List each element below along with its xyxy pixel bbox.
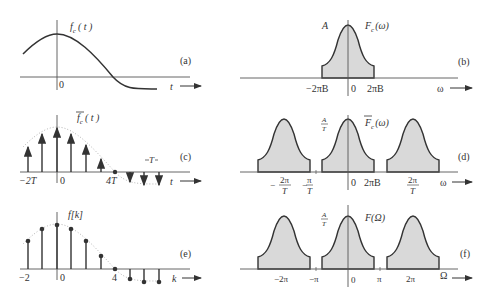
panel-f-dtft-spectrum: A T F(Ω) −2π −π 0 π 2π Ω (f) (240, 205, 472, 287)
panel-d-periodic-spectrum: A T Fc(ω) − 2π T − π T 0 2πB 2π T ω (d) (240, 115, 472, 196)
svg-text:A: A (321, 211, 327, 219)
tick-0: 0 (59, 79, 64, 90)
x-axis-label: t (170, 176, 173, 187)
svg-text:T: T (307, 186, 313, 196)
x-axis-label: k (172, 273, 177, 284)
svg-text:2π: 2π (280, 175, 290, 185)
panel-e-discrete-sequence: f[k] −2 0 4 k (e) (19, 209, 201, 284)
svg-text:T: T (322, 220, 327, 228)
panel-e-title: f[k] (68, 209, 83, 220)
tick-2piB: 2πB (364, 177, 381, 188)
tick-4T: 4T (106, 175, 118, 186)
svg-text:T: T (322, 125, 327, 133)
tick-neg-2pi: −2π (274, 274, 289, 284)
panel-label: (b) (458, 56, 470, 68)
tick-0: 0 (351, 83, 356, 94)
tick-neg-pi: −π (309, 274, 319, 284)
svg-text:T: T (282, 186, 288, 196)
svg-text:T: T (149, 155, 155, 165)
sampling-diagram: fc( t ) 0 t (a) A Fc(ω) −2πB 0 2πB ω (b) (0, 0, 491, 302)
svg-text:π: π (307, 175, 312, 185)
tick-0: 0 (351, 275, 356, 285)
panel-label: (c) (180, 151, 191, 163)
panel-label: (d) (458, 151, 470, 163)
tick-neg-2: −2 (19, 272, 30, 283)
x-axis-label: t (170, 81, 173, 92)
svg-text:A: A (321, 116, 327, 124)
panel-f-title: F(Ω) (364, 212, 386, 224)
tick-4: 4 (112, 272, 117, 283)
panel-a-continuous-signal: fc( t ) 0 t (a) (20, 20, 201, 92)
stem-samples (26, 223, 162, 285)
tick-pi: π (377, 274, 382, 284)
tick-neg-2T: −2T (19, 175, 38, 186)
tick-2piB: 2πB (367, 83, 384, 94)
tick-2pi-over-T: 2π T (407, 175, 419, 196)
x-axis-label: ω (440, 177, 447, 188)
tick-neg-pi-over-T: − π T (302, 175, 313, 196)
signal-curve (23, 34, 157, 89)
svg-text:2π: 2π (408, 175, 418, 185)
tick-0: 0 (60, 175, 65, 186)
panel-label: (f) (460, 248, 470, 260)
tick-0: 0 (60, 272, 65, 283)
tick-neg-2piB: −2πB (306, 83, 329, 94)
panel-b-spectrum: A Fc(ω) −2πB 0 2πB ω (b) (240, 20, 472, 96)
panel-label: (a) (180, 55, 191, 67)
tick-0: 0 (351, 177, 356, 188)
panel-b-title: Fc(ω) (364, 20, 390, 34)
panel-a-title: fc( t ) (70, 21, 93, 35)
x-axis-label: ω (437, 83, 444, 94)
panel-c-title: fc( t ) (77, 112, 100, 126)
amplitude-label: A (321, 20, 329, 31)
tick-2pi: 2π (406, 274, 416, 284)
x-axis-label: Ω (440, 270, 447, 281)
impulse-train (28, 128, 159, 185)
tick-neg-2pi-over-T: − 2π T (270, 175, 291, 196)
svg-text:T: T (410, 186, 416, 196)
panel-label: (e) (180, 248, 191, 260)
svg-text:−: − (270, 180, 275, 190)
panel-c-sampled-signal: fc( t ) −2T 0 4T t T (c) (19, 112, 201, 187)
panel-d-title: Fc(ω) (364, 117, 390, 131)
sampling-interval-indicator: T (145, 155, 158, 165)
